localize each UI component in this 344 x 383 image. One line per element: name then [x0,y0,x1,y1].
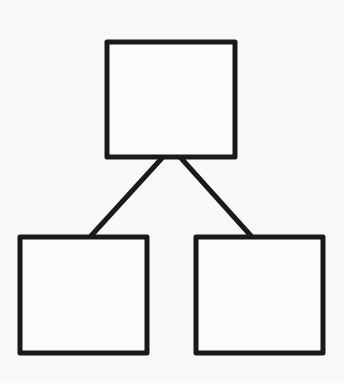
edge-root-to-right [180,157,252,237]
right-child-node [196,237,323,353]
edges [90,157,252,237]
root-node [107,42,235,157]
tree-diagram [0,0,344,383]
nodes [20,42,323,353]
left-child-node [20,237,147,353]
edge-root-to-left [90,157,163,237]
